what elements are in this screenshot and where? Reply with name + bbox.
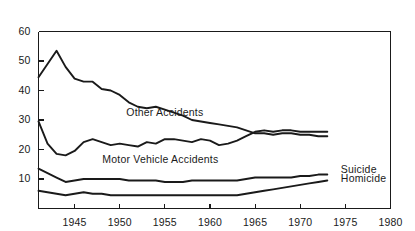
other-accidents-label: Other Accidents xyxy=(126,106,203,118)
y-tick-label-50: 50 xyxy=(7,54,31,66)
data-series-group xyxy=(39,51,328,196)
x-tick-label-1980: 1980 xyxy=(371,216,411,228)
x-tick-label-1970: 1970 xyxy=(280,216,320,228)
y-tick-label-40: 40 xyxy=(7,84,31,96)
plot-area xyxy=(0,0,415,231)
axes-frame xyxy=(39,32,391,209)
line-chart: 102030405060 194519501955196019651970197… xyxy=(0,0,415,231)
x-tick-label-1965: 1965 xyxy=(235,216,275,228)
y-tick-label-10: 10 xyxy=(7,172,31,184)
x-tick-label-1960: 1960 xyxy=(190,216,230,228)
x-tick-label-1975: 1975 xyxy=(325,216,365,228)
homicide-label: Homicide xyxy=(341,172,386,184)
series-line-suicide xyxy=(39,169,328,182)
motor-vehicle-accidents-label: Motor Vehicle Accidents xyxy=(102,153,218,165)
series-line-other-accidents xyxy=(39,51,328,137)
x-tick-label-1955: 1955 xyxy=(145,216,185,228)
series-line-motor-vehicle-accidents xyxy=(39,121,328,155)
x-tick-label-1950: 1950 xyxy=(100,216,140,228)
y-tick-label-20: 20 xyxy=(7,143,31,155)
y-tick-label-30: 30 xyxy=(7,113,31,125)
y-tick-label-60: 60 xyxy=(7,25,31,37)
axis-ticks xyxy=(39,32,391,209)
x-tick-label-1945: 1945 xyxy=(55,216,95,228)
